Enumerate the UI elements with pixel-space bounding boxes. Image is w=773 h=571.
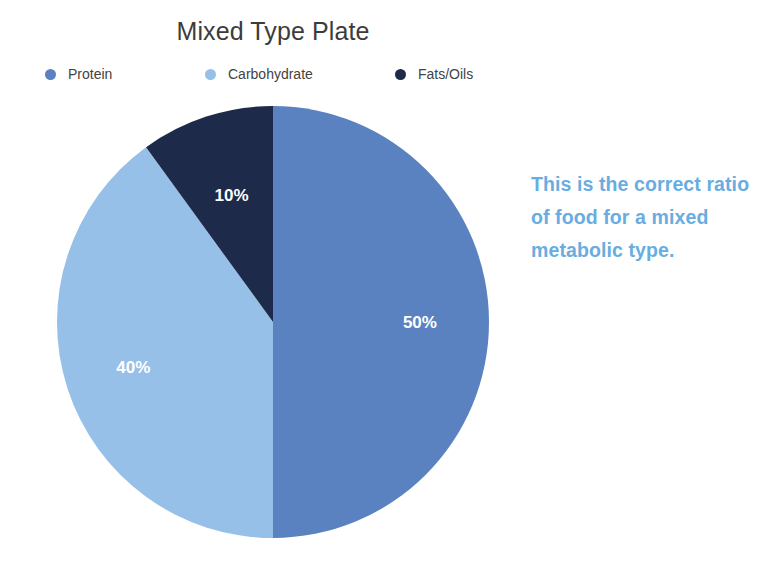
legend-item-label: Protein (68, 66, 112, 82)
pie-slice-value-label: 40% (116, 358, 150, 377)
pie-slice-value-label: 10% (215, 186, 249, 205)
legend-item-label: Fats/Oils (418, 66, 473, 82)
circle-marker-icon (395, 69, 406, 80)
circle-marker-icon (205, 69, 216, 80)
pie-slice-value-label: 50% (403, 313, 437, 332)
annotation-text: This is the correct ratio of food for a … (531, 168, 756, 267)
pie-chart: 50%40%10% (57, 105, 489, 539)
legend-item-carbohydrate[interactable]: Carbohydrate (205, 63, 395, 85)
pie-slice-protein[interactable] (273, 106, 489, 538)
circle-marker-icon (45, 69, 56, 80)
legend-item-fats-oils[interactable]: Fats/Oils (395, 63, 525, 85)
legend-item-label: Carbohydrate (228, 66, 313, 82)
page-title: Mixed Type Plate (0, 17, 546, 46)
chart-legend: Protein Carbohydrate Fats/Oils (45, 63, 525, 85)
legend-item-protein[interactable]: Protein (45, 63, 205, 85)
